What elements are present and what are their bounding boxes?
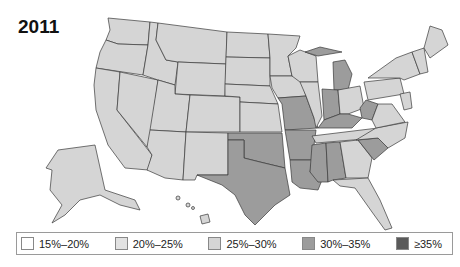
legend-swatch xyxy=(302,237,315,250)
state-south-dakota xyxy=(225,57,270,86)
state-florida xyxy=(333,178,392,230)
state-arizona xyxy=(147,130,186,180)
legend-label: 25%–30% xyxy=(226,238,276,250)
state-mid-atlantic xyxy=(400,92,412,110)
state-north-dakota xyxy=(226,32,270,58)
state-hawaii-islands-2 xyxy=(186,203,190,207)
legend-item-30-35: 30%–35% xyxy=(302,237,370,250)
legend-item-15-20: 15%–20% xyxy=(21,237,89,250)
state-new-mexico xyxy=(183,132,228,180)
legend-item-25-30: 25%–30% xyxy=(208,237,276,250)
state-hawaii xyxy=(200,214,210,224)
us-choropleth-map xyxy=(0,0,460,267)
state-michigan xyxy=(333,60,352,90)
legend-label: 15%–20% xyxy=(39,238,89,250)
state-montana xyxy=(156,23,227,64)
state-colorado xyxy=(186,95,240,132)
state-hawaii-islands xyxy=(176,196,180,200)
legend-swatch xyxy=(396,237,409,250)
legend-item-35-plus: ≥35% xyxy=(396,237,442,250)
legend-label: 20%–25% xyxy=(133,238,183,250)
legend-swatch xyxy=(21,237,34,250)
legend-item-20-25: 20%–25% xyxy=(115,237,183,250)
state-washington xyxy=(106,18,150,45)
state-hawaii-islands-3 xyxy=(192,207,195,210)
state-pennsylvania xyxy=(364,78,404,100)
state-maine xyxy=(424,26,448,58)
legend-swatch xyxy=(208,237,221,250)
map-legend: 15%–20% 20%–25% 25%–30% 30%–35% ≥35% xyxy=(16,232,453,255)
legend-label: ≥35% xyxy=(414,238,442,250)
legend-swatch xyxy=(115,237,128,250)
state-new-york xyxy=(368,52,420,80)
state-wyoming xyxy=(175,62,226,96)
legend-label: 30%–35% xyxy=(320,238,370,250)
state-kansas xyxy=(240,102,282,132)
